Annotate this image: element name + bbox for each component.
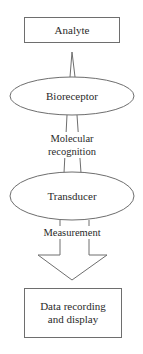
bioreceptor-label: Bioreceptor: [46, 90, 98, 103]
data-recording-box: Data recording and display: [24, 288, 122, 338]
measurement-label: Measurement: [30, 226, 114, 239]
analyte-label: Analyte: [55, 24, 90, 37]
transducer-label: Transducer: [47, 190, 96, 203]
bioreceptor-node: Bioreceptor: [10, 85, 134, 107]
data-recording-label: Data recording and display: [33, 300, 113, 326]
up-arrow-icon: [70, 52, 75, 77]
molecular-recognition-label: Molecular recognition: [36, 132, 108, 158]
analyte-box: Analyte: [24, 17, 120, 43]
transducer-node: Transducer: [10, 185, 134, 207]
